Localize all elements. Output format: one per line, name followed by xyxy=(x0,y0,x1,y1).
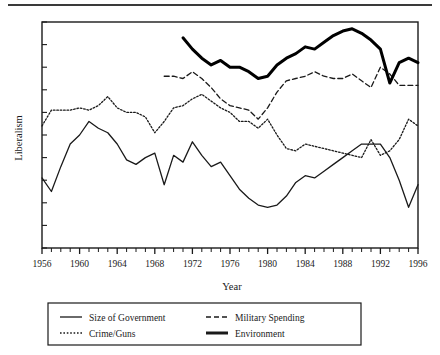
chart-legend: Size of GovernmentMilitary SpendingCrime… xyxy=(48,303,361,345)
legend-label-size-of-government: Size of Government xyxy=(89,313,166,323)
x-tick-label-1996: 1996 xyxy=(409,259,428,269)
y-axis-title: Liberalism xyxy=(13,115,24,161)
x-tick-label-1956: 1956 xyxy=(33,259,52,269)
top-horizontal-rule xyxy=(8,4,432,6)
legend-label-crime-guns: Crime/Guns xyxy=(89,329,136,339)
series-line-size-of-government xyxy=(42,121,418,207)
x-tick-label-1972: 1972 xyxy=(183,259,202,269)
legend-label-military-spending: Military Spending xyxy=(235,313,305,323)
series-line-military-spending xyxy=(164,67,418,119)
liberalism-trends-line-chart: 1956196019641968197219761980198419881992… xyxy=(0,0,440,355)
x-tick-label-1980: 1980 xyxy=(258,259,277,269)
x-axis-ticks xyxy=(42,248,418,254)
series-line-crime-guns xyxy=(42,94,418,157)
plot-frame xyxy=(42,22,418,248)
x-tick-label-1988: 1988 xyxy=(333,259,352,269)
x-axis-title: Year xyxy=(222,281,242,292)
x-axis-tick-labels: 1956196019641968197219761980198419881992… xyxy=(33,259,428,269)
x-tick-label-1976: 1976 xyxy=(221,259,240,269)
x-tick-label-1960: 1960 xyxy=(70,259,89,269)
x-tick-label-1984: 1984 xyxy=(296,259,315,269)
legend-label-environment: Environment xyxy=(235,329,285,339)
x-tick-label-1968: 1968 xyxy=(145,259,164,269)
figure-container: 1956196019641968197219761980198419881992… xyxy=(0,0,440,355)
x-tick-label-1964: 1964 xyxy=(108,259,127,269)
y-axis-ticks xyxy=(42,22,47,248)
series-line-environment xyxy=(183,29,418,83)
x-tick-label-1992: 1992 xyxy=(371,259,390,269)
series-lines-group xyxy=(42,29,418,208)
